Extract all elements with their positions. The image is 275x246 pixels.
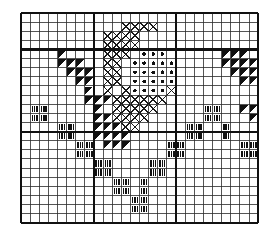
- stitch-cell-bars: [132, 197, 138, 203]
- stitch-cell-bars: [105, 160, 111, 166]
- stitch-cell-bars: [150, 169, 156, 175]
- stitch-cell-dot: [142, 61, 146, 65]
- stitch-cell-bars: [86, 142, 92, 148]
- stitch-cell-bars: [250, 151, 256, 157]
- stitch-cell-dot: [170, 80, 174, 84]
- stitch-cell-bars: [187, 124, 193, 130]
- stitch-cell-bars: [159, 169, 165, 175]
- stitch-cell-bars: [241, 142, 247, 148]
- stitch-cell-dot: [170, 70, 174, 74]
- stitch-cell-bars: [196, 133, 202, 139]
- stitch-cell-dot: [133, 70, 137, 74]
- stitch-cell-dot: [151, 89, 155, 93]
- stitch-cell-dot: [151, 52, 155, 56]
- stitch-cell-bars: [68, 124, 74, 130]
- stitch-cell-dot: [161, 89, 165, 93]
- stitch-cell-bars: [32, 106, 38, 112]
- stitch-cell-dot: [133, 61, 137, 65]
- stitch-cell-bars: [114, 188, 120, 194]
- stitch-cell-dot: [142, 80, 146, 84]
- stitch-cell-dot: [161, 52, 165, 56]
- stitch-cell-dot: [161, 80, 165, 84]
- stitch-cell-bars: [159, 160, 165, 166]
- stitch-cell-bars: [77, 151, 83, 157]
- stitch-cell-dot: [151, 61, 155, 65]
- stitch-cell-bars: [95, 169, 101, 175]
- stitch-cell-dot: [151, 80, 155, 84]
- stitch-cell-bars: [141, 188, 147, 194]
- stitch-cell-bars: [123, 179, 129, 185]
- stitch-cell-bars: [41, 115, 47, 121]
- stitch-cell-bars: [250, 142, 256, 148]
- stitch-cell-dot: [133, 80, 137, 84]
- stitch-cell-bars: [77, 142, 83, 148]
- stitch-cell-dot: [161, 61, 165, 65]
- stitch-cell-dot: [161, 70, 165, 74]
- cross-stitch-chart: [0, 0, 275, 246]
- stitch-cell-bars: [177, 151, 183, 157]
- stitch-cell-bars: [141, 197, 147, 203]
- stitch-cell-dot: [142, 70, 146, 74]
- stitch-cell-bars: [68, 133, 74, 139]
- stitch-cell-bars: [205, 115, 211, 121]
- stitch-cell-dot: [170, 61, 174, 65]
- stitch-cell-bars: [59, 124, 65, 130]
- chart-canvas: [0, 0, 275, 246]
- stitch-cell-bars: [114, 179, 120, 185]
- stitch-cell-bars: [132, 206, 138, 212]
- stitch-cell-bars: [168, 151, 174, 157]
- stitch-cell-bars: [41, 106, 47, 112]
- stitch-cell-dot: [142, 52, 146, 56]
- stitch-cell-bars: [141, 179, 147, 185]
- stitch-cell-bars: [59, 133, 65, 139]
- stitch-cell-bars: [86, 151, 92, 157]
- stitch-cell-dot: [151, 70, 155, 74]
- stitch-cell-bars: [123, 188, 129, 194]
- stitch-cell-bars: [168, 142, 174, 148]
- stitch-cell-bars: [205, 106, 211, 112]
- stitch-cell-bars: [105, 169, 111, 175]
- stitch-cell-bars: [214, 115, 220, 121]
- stitch-cell-bars: [196, 124, 202, 130]
- stitch-cell-bars: [214, 106, 220, 112]
- stitch-cell-bars: [150, 160, 156, 166]
- stitch-cell-bars: [223, 124, 229, 130]
- stitch-cell-bars: [241, 151, 247, 157]
- stitch-cell-bars: [187, 133, 193, 139]
- stitch-cell-dot: [142, 89, 146, 93]
- stitch-cell-bars: [95, 160, 101, 166]
- stitch-cell-bars: [32, 115, 38, 121]
- stitch-cell-bars: [223, 133, 229, 139]
- stitch-cell-bars: [141, 206, 147, 212]
- stitch-cell-dot: [133, 89, 137, 93]
- stitch-cell-bars: [177, 142, 183, 148]
